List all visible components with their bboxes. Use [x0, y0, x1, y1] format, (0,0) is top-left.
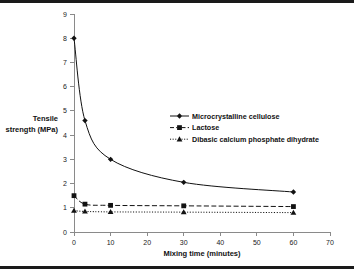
data-point-marker	[71, 36, 76, 41]
y-tick-label: 5	[63, 107, 67, 114]
x-tick-label: 0	[72, 239, 76, 246]
data-point-marker	[82, 118, 87, 123]
legend-label: Lactose	[192, 123, 219, 132]
x-axis: 010203040506070	[72, 232, 334, 246]
series-3	[71, 208, 296, 215]
y-tick-label: 1	[63, 204, 67, 211]
y-tick-label: 7	[63, 59, 67, 66]
data-point-marker	[181, 203, 186, 208]
x-tick-label: 70	[326, 239, 334, 246]
x-tick-label: 40	[216, 239, 224, 246]
figure-root: 0123456789 010203040506070 Microcrystall…	[0, 0, 354, 275]
y-tick-label: 0	[63, 229, 67, 236]
chart-stage: 0123456789 010203040506070 Microcrystall…	[0, 3, 354, 263]
y-axis-title: Tensile strength (MPa)	[6, 114, 59, 134]
data-point-marker	[83, 202, 88, 207]
x-tick-label: 60	[290, 239, 298, 246]
legend-item-2: Lactose	[170, 123, 219, 132]
data-point-marker	[72, 193, 77, 198]
legend-marker	[177, 125, 182, 130]
y-tick-label: 9	[63, 11, 67, 18]
y-tick-label: 4	[63, 132, 67, 139]
x-tick-label: 30	[180, 239, 188, 246]
y-tick-label: 8	[63, 35, 67, 42]
y-axis: 0123456789	[63, 11, 74, 236]
y-tick-label: 3	[63, 156, 67, 163]
legend-label: Microcrystalline cellulose	[192, 112, 280, 121]
data-point-marker	[291, 210, 297, 215]
x-tick-label: 10	[107, 239, 115, 246]
legend-item-3: Dibasic calcium phosphate dihydrate	[170, 135, 319, 144]
legend-marker	[177, 113, 182, 118]
svg-text:Tensile: Tensile	[33, 114, 58, 123]
x-tick-label: 50	[253, 239, 261, 246]
data-point-marker	[291, 204, 296, 209]
y-tick-label: 6	[63, 83, 67, 90]
line-chart: 0123456789 010203040506070 Microcrystall…	[0, 3, 354, 263]
data-point-marker	[291, 189, 296, 194]
series-2	[72, 193, 296, 209]
bottom-divider-rule	[0, 266, 354, 269]
series-layer	[71, 36, 296, 215]
legend-label: Dibasic calcium phosphate dihydrate	[192, 135, 319, 144]
x-tick-label: 20	[143, 239, 151, 246]
data-point-marker	[108, 203, 113, 208]
data-point-marker	[71, 208, 77, 213]
chart-legend: Microcrystalline celluloseLactoseDibasic…	[170, 112, 319, 144]
data-point-marker	[108, 157, 113, 162]
x-axis-title: Mixing time (minutes)	[163, 249, 241, 258]
data-point-marker	[181, 209, 187, 214]
data-point-marker	[181, 180, 186, 185]
y-tick-label: 2	[63, 180, 67, 187]
legend-item-1: Microcrystalline cellulose	[170, 112, 280, 121]
svg-text:strength (MPa): strength (MPa)	[6, 125, 59, 134]
